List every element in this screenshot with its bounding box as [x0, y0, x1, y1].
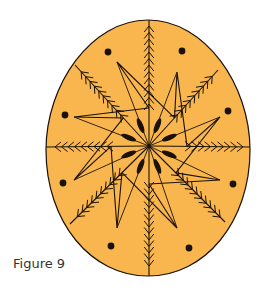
- dot: [108, 243, 115, 250]
- branch-barb: [108, 101, 109, 109]
- dot: [105, 49, 112, 56]
- dot: [62, 112, 69, 119]
- branch-barb: [90, 81, 91, 89]
- figure-caption: Figure 9: [13, 256, 65, 271]
- branch-barb: [94, 86, 95, 94]
- dot: [186, 245, 193, 252]
- branch-barb: [103, 96, 104, 104]
- branch-barb: [99, 91, 100, 99]
- dot: [60, 180, 67, 187]
- dot: [230, 181, 237, 188]
- dot: [179, 48, 186, 55]
- branch-barb: [112, 105, 113, 113]
- egg-illustration: [0, 0, 267, 291]
- branch-barb: [121, 115, 122, 123]
- branch-barb: [86, 77, 87, 85]
- dot: [225, 108, 232, 115]
- branch-barb: [81, 72, 82, 80]
- branch-barb: [116, 110, 117, 118]
